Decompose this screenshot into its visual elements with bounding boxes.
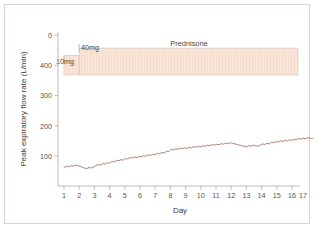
x-tick-label-7: 7 — [153, 191, 157, 200]
chart-plot-area: 10mg 40mg Prednisone 0 400 300 200 — [0, 0, 316, 230]
x-tick-label-4: 4 — [108, 191, 112, 200]
x-ticks — [64, 186, 292, 190]
y-tick-label-2: 300 — [40, 91, 52, 100]
y-tick-label-4: 100 — [40, 152, 52, 161]
dose-label-10mg: 10mg — [56, 57, 74, 66]
x-tick-label-9: 9 — [184, 191, 188, 200]
x-tick-label-12: 12 — [227, 191, 235, 200]
x-tick-label-1: 1 — [62, 191, 66, 200]
x-tick-label-16: 16 — [288, 191, 296, 200]
x-tick-label-10: 10 — [197, 191, 205, 200]
x-tick-label-17: 17 — [299, 191, 307, 200]
x-tick-labels: 1 2 3 4 5 6 7 8 9 10 11 12 13 14 15 16 1… — [62, 191, 307, 200]
dose-label-40mg: 40mg — [81, 43, 99, 52]
x-axis-title: Day — [173, 206, 187, 215]
y-ticks — [55, 35, 59, 156]
x-tick-label-3: 3 — [92, 191, 96, 200]
dose-step-40mg-hatch — [79, 48, 298, 75]
y-tick-labels: 0 400 300 200 100 — [40, 31, 52, 161]
y-axis-title: Peak expiratory flow rate (L/min) — [19, 51, 28, 166]
x-tick-label-2: 2 — [77, 191, 81, 200]
treatment-band-label: Prednisone — [170, 39, 207, 48]
y-tick-label-3: 200 — [40, 122, 52, 131]
x-tick-label-15: 15 — [273, 191, 281, 200]
treatment-band-group: 10mg 40mg Prednisone — [56, 39, 298, 75]
x-tick-label-13: 13 — [242, 191, 250, 200]
y-tick-label-0: 0 — [48, 31, 52, 40]
x-tick-label-14: 14 — [258, 191, 266, 200]
x-tick-label-8: 8 — [168, 191, 172, 200]
x-tick-label-6: 6 — [138, 191, 142, 200]
series-line-peak-flow — [64, 138, 313, 169]
x-tick-label-5: 5 — [123, 191, 127, 200]
y-tick-label-1: 400 — [40, 61, 52, 70]
chart-figure: 10mg 40mg Prednisone 0 400 300 200 — [0, 0, 316, 230]
x-tick-label-11: 11 — [212, 191, 219, 200]
